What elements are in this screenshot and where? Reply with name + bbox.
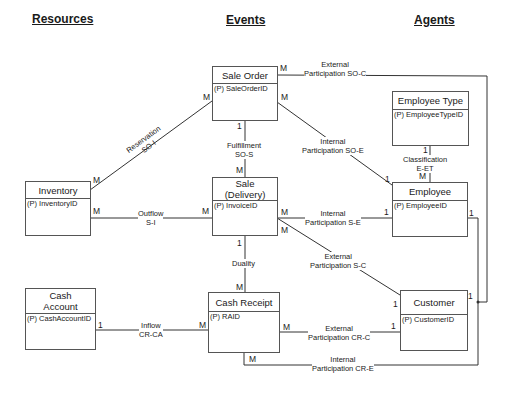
cardinality-s-e-from: M (281, 208, 288, 217)
relationship-label-inflow: InflowCR-CA (139, 321, 163, 339)
cardinality-so-e-to: 1 (385, 175, 390, 184)
cardinality-s-c-to: 1 (393, 300, 398, 309)
cardinality-outflow-to: M (202, 207, 209, 216)
entity-title: Employee Type (393, 92, 468, 110)
cardinality-cr-c-from: M (283, 323, 290, 332)
cardinality-cr-e-to: 1 (469, 209, 474, 218)
entity-employee-type[interactable]: Employee Type (P) EmployeeTypeID (392, 91, 469, 146)
entity-primary-key: (P) InvoiceID (213, 201, 277, 211)
cardinality-outflow-from: M (93, 207, 100, 216)
relationship-label-internal-cr-e: InternalParticipation CR-E (312, 355, 374, 373)
entity-sale-delivery[interactable]: Sale (Delivery) (P) InvoiceID (212, 177, 278, 236)
relationship-label-outflow: OutflowS-I (138, 209, 163, 227)
cardinality-s-c-from: M (281, 226, 288, 235)
entity-title: Inventory (26, 182, 90, 199)
relationship-label-internal-so-e: InternalParticipation SO-E (302, 137, 364, 155)
entity-primary-key: (P) EmployeeTypeID (393, 110, 468, 120)
entity-title: Customer (401, 291, 467, 315)
entity-title: Cash Account (26, 289, 95, 314)
cardinality-cr-e-from: M (249, 355, 256, 364)
entity-primary-key: (P) CashAccountID (26, 314, 95, 324)
relationship-label-external-cr-c: ExternalParticipation CR-C (308, 324, 370, 342)
entity-title: Employee (393, 183, 467, 201)
entity-inventory[interactable]: Inventory (P) InventoryID (25, 181, 91, 236)
relationship-label-external-s-c: ExternalParticipation S-C (310, 252, 366, 270)
cardinality-fulfillment-from: 1 (237, 122, 242, 131)
entity-primary-key: (P) EmployeeID (393, 201, 467, 211)
cardinality-classification-from: 1 (423, 146, 428, 155)
entity-title: Sale (Delivery) (213, 178, 277, 201)
entity-title: Cash Receipt (209, 293, 279, 312)
relationship-label-duality: Duality (232, 259, 255, 268)
entity-primary-key: (P) InventoryID (26, 199, 90, 209)
cardinality-reservation-to: M (93, 176, 100, 185)
cardinality-classification-to: M (419, 172, 426, 181)
entity-employee[interactable]: Employee (P) EmployeeID (392, 182, 468, 237)
entity-cash-account[interactable]: Cash Account (P) CashAccountID (25, 288, 96, 350)
cardinality-duality-from: 1 (237, 239, 242, 248)
entity-primary-key: (P) RAID (209, 312, 279, 322)
entity-title-line2: Account (43, 301, 77, 312)
entity-primary-key: (P) SaleOrderID (213, 84, 277, 94)
cardinality-s-e-to: 1 (384, 208, 389, 217)
cardinality-so-e-from: M (281, 93, 288, 102)
cardinality-cr-c-to: 1 (391, 322, 396, 331)
entity-title: Sale Order (213, 67, 277, 84)
cardinality-fulfillment-to: M (236, 166, 243, 175)
cardinality-inflow-to: M (199, 321, 206, 330)
entity-title-line1: Cash (49, 290, 71, 301)
cardinality-reservation-from: M (203, 93, 210, 102)
cardinality-so-c-from: M (280, 64, 287, 73)
entity-title-line1: Sale (235, 178, 254, 189)
relationship-label-fulfillment: FulfillmentSO-S (227, 141, 261, 159)
cardinality-inflow-from: 1 (98, 321, 103, 330)
entity-primary-key: (P) CustomerID (401, 315, 467, 325)
entity-customer[interactable]: Customer (P) CustomerID (400, 290, 468, 351)
entity-cash-receipt[interactable]: Cash Receipt (P) RAID (208, 292, 280, 353)
entity-title-line2: (Delivery) (225, 189, 266, 200)
entity-sale-order[interactable]: Sale Order (P) SaleOrderID (212, 66, 278, 121)
cardinality-duality-to: M (236, 283, 243, 292)
relationship-label-internal-s-e: InternalParticipation S-E (305, 209, 361, 227)
cardinality-so-c-to: 1 (468, 292, 473, 301)
relationship-label-external-so-c: ExternalParticipation SO-C (304, 60, 366, 78)
